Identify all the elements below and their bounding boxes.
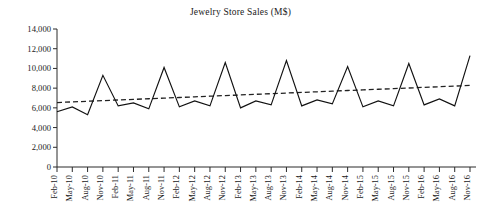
x-axis-tick-label: Nov-13 — [279, 175, 288, 201]
x-axis-tick-label: May-13 — [249, 175, 258, 202]
x-axis-tick-label: Nov-14 — [341, 174, 350, 200]
y-axis-tick-label: 12,000 — [27, 44, 51, 54]
x-axis-tick-label: Feb-10 — [50, 175, 59, 199]
x-axis-tick-label: Feb-15 — [356, 175, 365, 199]
x-axis-tick-label: Aug-16 — [448, 175, 457, 201]
x-axis-tick-label: Feb-14 — [295, 174, 304, 199]
x-axis-tick-label: Nov-11 — [157, 175, 166, 200]
x-axis-tick-labels: Feb-10May-10Aug-10Nov-10Feb-11May-11Aug-… — [50, 174, 472, 201]
x-axis-tick-label: Feb-12 — [172, 175, 181, 199]
x-axis-tick-label: May-15 — [371, 175, 380, 202]
x-axis-tick-label: May-16 — [432, 175, 441, 202]
x-axis-tick-label: Aug-12 — [203, 175, 212, 201]
x-axis-tick-label: Aug-10 — [81, 175, 90, 201]
x-axis-tick-label: Aug-14 — [325, 174, 334, 200]
x-axis-tick-label: Feb-11 — [111, 175, 120, 198]
x-axis-tick-marks — [57, 167, 470, 172]
y-axis-tick-label: 6,000 — [32, 103, 51, 113]
y-axis-tick-marks — [53, 29, 57, 167]
y-axis-tick-label: 4,000 — [32, 123, 51, 133]
x-axis-tick-label: May-11 — [126, 175, 135, 201]
y-axis-tick-labels: 02,0004,0006,0008,00010,00012,00014,000 — [27, 24, 51, 172]
y-axis-tick-label: 10,000 — [27, 63, 51, 73]
chart-plot-area: 02,0004,0006,0008,00010,00012,00014,000 … — [0, 0, 481, 224]
y-axis-tick-label: 2,000 — [32, 142, 51, 152]
x-axis-tick-label: May-10 — [65, 175, 74, 202]
x-axis-tick-label: May-12 — [188, 175, 197, 202]
y-axis-tick-label: 0 — [47, 162, 51, 172]
x-axis-tick-label: Aug-15 — [387, 175, 396, 201]
chart-figure: Jewelry Store Sales (M$) 02,0004,0006,00… — [0, 0, 481, 224]
x-axis-tick-label: Nov-16 — [463, 175, 472, 201]
x-axis-tick-label: Aug-13 — [264, 175, 273, 201]
x-axis-tick-label: Nov-10 — [96, 175, 105, 201]
x-axis-tick-label: May-14 — [310, 174, 319, 201]
trendline-series — [57, 85, 470, 102]
y-axis-tick-label: 14,000 — [27, 24, 51, 34]
x-axis-tick-label: Aug-11 — [142, 175, 151, 200]
x-axis-tick-label: Nov-15 — [402, 175, 411, 201]
x-axis-tick-label: Feb-13 — [234, 175, 243, 199]
x-axis-tick-label: Feb-16 — [417, 175, 426, 199]
y-axis-tick-label: 8,000 — [32, 83, 51, 93]
x-axis-tick-label: Nov-12 — [218, 175, 227, 201]
sales-series-line — [57, 56, 470, 115]
